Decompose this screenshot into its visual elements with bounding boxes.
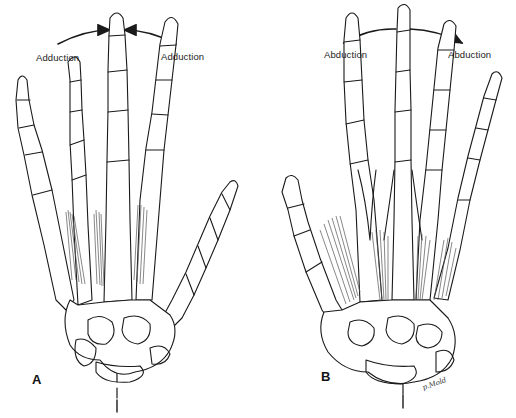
abduction-label-left: Abduction — [324, 49, 367, 60]
hand-skeleton-b-illustration — [258, 0, 516, 418]
adduction-arrow-left-icon — [58, 30, 110, 44]
panel-a-adduction: Adduction Adduction A — [0, 0, 258, 418]
panel-letter-a: A — [32, 372, 41, 387]
abduction-label-right: Abduction — [448, 49, 491, 60]
adduction-label-left: Adduction — [36, 52, 79, 63]
adduction-label-right: Adduction — [161, 51, 204, 62]
panel-b-abduction: Abduction Abduction B p.Mold — [258, 0, 516, 418]
panel-letter-b: B — [321, 369, 330, 384]
